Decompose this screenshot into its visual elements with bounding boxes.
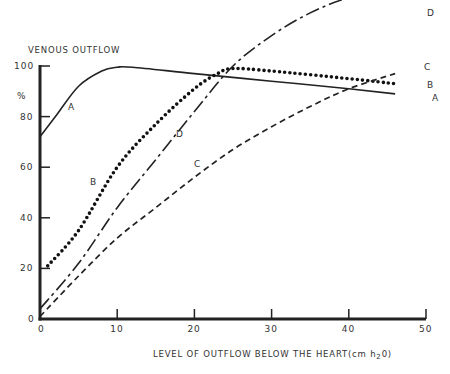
y-axis-unit: % (17, 91, 27, 101)
y-tick-label: 60 (20, 162, 33, 172)
curve-label-c: C (424, 62, 430, 72)
y-axis-title: VENOUS OUTFLOW (28, 45, 120, 55)
curve-c (40, 74, 395, 317)
curve-label-a: A (68, 102, 75, 112)
x-tick-label: 50 (419, 324, 432, 334)
x-tick-label: 30 (265, 324, 278, 334)
x-axis-title: LEVEL OF OUTFLOW BELOW THE HEART (153, 349, 348, 359)
line-chart: 02040608010001020304050AABBCCDD VENOUS O… (0, 0, 450, 374)
y-tick-label: 20 (20, 263, 33, 273)
x-axis-unit: (cm h20) (348, 349, 392, 361)
curve-label-d: D (427, 8, 434, 18)
y-tick-label: 100 (14, 61, 34, 71)
curve-b (48, 68, 395, 265)
x-tick-label: 0 (38, 324, 45, 334)
x-tick-label: 10 (110, 324, 123, 334)
x-tick-label: 20 (187, 324, 200, 334)
curve-label-b: B (90, 177, 96, 187)
x-tick-label: 40 (342, 324, 355, 334)
curve-label-d: D (176, 129, 183, 139)
y-tick-label: 40 (20, 213, 33, 223)
axes: 02040608010001020304050AABBCCDD (14, 8, 439, 334)
y-tick-label: 80 (20, 112, 33, 122)
y-tick-label: 0 (28, 314, 35, 324)
curve-label-b: B (427, 80, 433, 90)
curve-label-a: A (432, 93, 439, 103)
curve-label-c: C (194, 159, 200, 169)
